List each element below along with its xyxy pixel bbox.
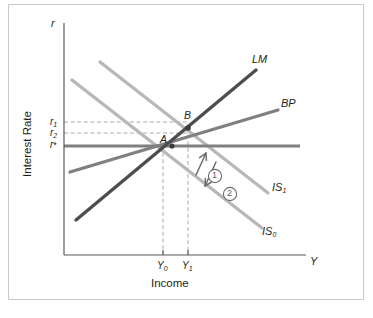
point-B-marker	[185, 125, 191, 131]
curve-label-IS1: IS1	[272, 182, 286, 193]
x-tick-Y1-sub: 1	[189, 265, 193, 272]
step-2-label: 2	[227, 189, 232, 198]
y-axis-symbol: r	[51, 18, 55, 29]
point-label-B: B	[184, 110, 191, 121]
curve-label-IS0-base: IS	[262, 225, 272, 237]
y-tick-r1-sub: 1	[53, 121, 57, 128]
curve-label-IS1-sub: 1	[282, 187, 286, 194]
x-tick-Y0-base: Y	[157, 260, 164, 271]
curve-label-LM: LM	[252, 54, 267, 65]
curve-label-IS0: IS0	[262, 226, 276, 237]
y-tick-r2-sub: 2	[53, 132, 57, 139]
y-axis-title: Interest Rate	[21, 96, 33, 192]
curve-label-IS0-sub: 0	[272, 231, 276, 238]
is-lm-bp-figure: r Y Interest Rate Income r1 r2 r* Y0 Y1 …	[0, 0, 373, 318]
x-axis-symbol: Y	[310, 256, 317, 267]
y-tick-r2: r2	[50, 128, 57, 138]
y-tick-r1: r1	[50, 117, 57, 127]
point-A-marker	[169, 143, 174, 148]
x-tick-Y1-base: Y	[182, 260, 189, 271]
x-tick-Y0-sub: 0	[164, 265, 168, 272]
curve-IS0	[72, 80, 262, 228]
step-1-label: 1	[212, 171, 217, 180]
curve-label-BP: BP	[281, 98, 296, 109]
y-tick-rstar-sub: *	[53, 140, 57, 150]
x-tick-Y0: Y0	[157, 261, 168, 271]
x-axis-title: Income	[151, 278, 189, 290]
y-tick-rstar: r*	[50, 140, 57, 150]
point-label-A: A	[160, 134, 167, 145]
x-tick-Y1: Y1	[182, 261, 193, 271]
curve-label-IS1-base: IS	[272, 181, 282, 193]
